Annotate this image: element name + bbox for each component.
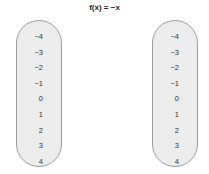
range-value: −1 <box>153 76 197 92</box>
domain-value: 4 <box>17 154 61 170</box>
range-value: 1 <box>153 107 197 123</box>
domain-value: −3 <box>17 45 61 61</box>
range-value: −3 <box>153 45 197 61</box>
range-value: 3 <box>153 138 197 154</box>
range-oval: −4 −3 −2 −1 0 1 2 3 4 <box>152 20 198 167</box>
domain-value: −1 <box>17 76 61 92</box>
domain-value: −2 <box>17 60 61 76</box>
range-value: 4 <box>153 154 197 170</box>
range-value: −4 <box>153 29 197 45</box>
range-values: −4 −3 −2 −1 0 1 2 3 4 <box>153 29 197 169</box>
domain-value: 2 <box>17 123 61 139</box>
domain-values: −4 −3 −2 −1 0 1 2 3 4 <box>17 29 61 169</box>
domain-value: 0 <box>17 91 61 107</box>
domain-oval: −4 −3 −2 −1 0 1 2 3 4 <box>16 20 62 167</box>
range-value: 0 <box>153 91 197 107</box>
domain-value: −4 <box>17 29 61 45</box>
domain-value: 3 <box>17 138 61 154</box>
domain-value: 1 <box>17 107 61 123</box>
range-value: 2 <box>153 123 197 139</box>
function-title: f(x) = −x <box>0 3 209 12</box>
range-value: −2 <box>153 60 197 76</box>
